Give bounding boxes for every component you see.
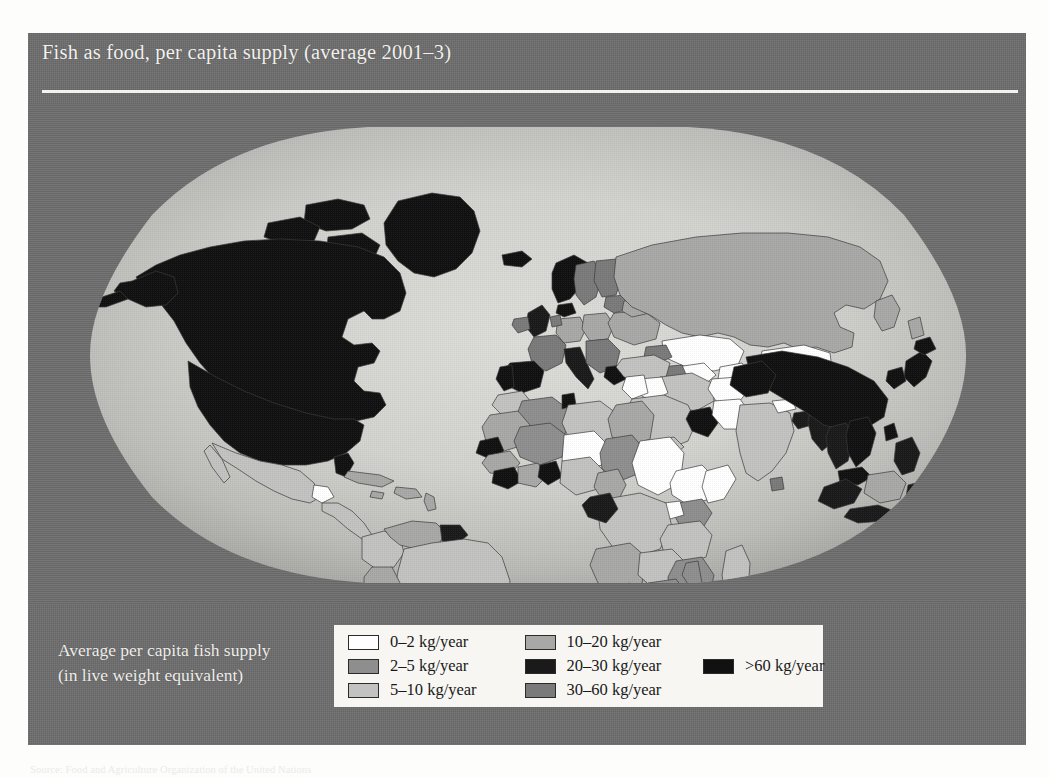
legend-swatch	[348, 635, 379, 650]
legend-swatch	[525, 683, 556, 698]
legend-heading-line1: Average per capita fish supply	[58, 638, 271, 663]
source-caption: Source: Food and Agriculture Organizatio…	[30, 764, 1030, 775]
legend-heading: Average per capita fish supply (in live …	[58, 638, 271, 688]
legend-item-label: 10–20 kg/year	[567, 632, 662, 652]
legend-heading-line2: (in live weight equivalent)	[58, 663, 271, 688]
legend-swatch	[703, 659, 734, 674]
legend-item: 20–30 kg/year	[525, 654, 703, 678]
legend-item-label: 20–30 kg/year	[567, 656, 662, 676]
legend-item-label: 0–2 kg/year	[390, 632, 468, 652]
legend-swatch	[348, 683, 379, 698]
legend-column-1: 0–2 kg/year 2–5 kg/year 5–10 kg/year	[348, 630, 525, 702]
legend-swatch	[348, 659, 379, 674]
map-panel: Fish as food, per capita supply (average…	[28, 33, 1026, 745]
legend-box: 0–2 kg/year 2–5 kg/year 5–10 kg/year 10–…	[334, 625, 823, 707]
legend-item: 30–60 kg/year	[525, 678, 703, 702]
legend-column-2: 10–20 kg/year 20–30 kg/year 30–60 kg/yea…	[525, 630, 703, 702]
legend-item-label: 2–5 kg/year	[390, 656, 468, 676]
legend-swatch	[525, 659, 556, 674]
paper-texture-overlay	[28, 105, 1026, 605]
world-map	[28, 105, 1026, 605]
legend-column-3: >60 kg/year	[703, 654, 823, 678]
legend-item-label: 5–10 kg/year	[390, 680, 477, 700]
legend-item-label: 30–60 kg/year	[567, 680, 662, 700]
legend-item: 2–5 kg/year	[348, 654, 525, 678]
page-title: Fish as food, per capita supply (average…	[42, 41, 451, 64]
legend-item: >60 kg/year	[703, 654, 823, 678]
legend-swatch	[525, 635, 556, 650]
legend-item: 5–10 kg/year	[348, 678, 525, 702]
legend-item: 0–2 kg/year	[348, 630, 525, 654]
title-divider-rule	[42, 90, 1018, 93]
world-map-svg	[28, 105, 1026, 605]
legend-item: 10–20 kg/year	[525, 630, 703, 654]
legend-item-label: >60 kg/year	[745, 656, 824, 676]
